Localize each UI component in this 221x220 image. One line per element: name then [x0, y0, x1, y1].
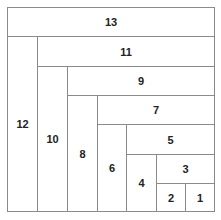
cell-label: 9 — [138, 75, 144, 87]
cell-label: 13 — [105, 16, 117, 28]
cell-label: 12 — [16, 118, 28, 130]
cell-3: 3 — [156, 154, 215, 184]
cell-4: 4 — [126, 154, 157, 212]
cell-1: 1 — [185, 183, 215, 212]
cell-5: 5 — [126, 124, 215, 155]
cell-10: 10 — [37, 66, 68, 212]
cell-label: 3 — [182, 163, 188, 175]
cell-label: 2 — [168, 192, 174, 204]
cell-label: 1 — [197, 192, 203, 204]
cell-label: 6 — [109, 162, 115, 174]
cell-label: 8 — [79, 148, 85, 160]
cell-11: 11 — [37, 36, 215, 67]
cell-label: 11 — [120, 46, 132, 58]
cell-2: 2 — [156, 183, 186, 212]
cell-label: 10 — [46, 133, 58, 145]
cell-label: 7 — [153, 104, 159, 116]
cell-12: 12 — [7, 36, 38, 212]
cell-6: 6 — [97, 124, 127, 212]
cell-label: 5 — [167, 134, 173, 146]
cell-label: 4 — [138, 177, 144, 189]
cell-7: 7 — [97, 95, 215, 125]
cell-13: 13 — [7, 7, 215, 37]
cell-8: 8 — [67, 95, 98, 212]
cell-9: 9 — [67, 66, 215, 96]
